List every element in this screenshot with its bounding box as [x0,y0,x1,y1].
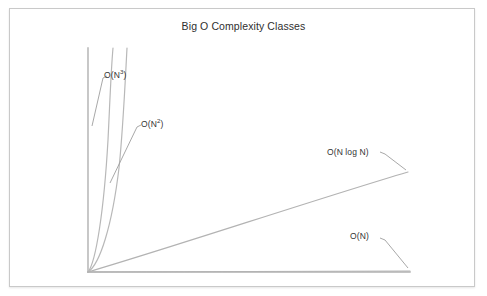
curve-label-o-n-cubed: O(N3) [104,70,126,80]
leader-line-o-n [380,238,408,268]
curve-label-o-n-cubed-base: O(N [104,70,120,80]
curve-label-o-n-log-n-base: O(N log N) [327,147,369,157]
curve-label-o-n-cubed-close: ) [123,70,126,80]
curve-label-o-n-squared-base: O(N [141,119,157,129]
curve-label-o-n: O(N) [350,231,369,241]
curve-o-n-log-n [88,172,408,272]
leader-line-o-n-cubed [92,76,107,126]
curve-label-o-n-squared-close: ) [160,119,163,129]
curve-label-o-n-log-n: O(N log N) [327,147,369,157]
leader-line-o-n-squared [110,125,141,183]
big-o-plot [0,0,487,296]
curve-o-n-cubed [88,48,113,272]
figure-page: Big O Complexity Classes O(N3) O(N2) O(N… [0,0,487,296]
curve-label-o-n-squared: O(N2) [141,119,163,129]
leader-line-o-n-log-n [380,152,406,170]
curve-label-o-n-base: O(N) [350,231,369,241]
